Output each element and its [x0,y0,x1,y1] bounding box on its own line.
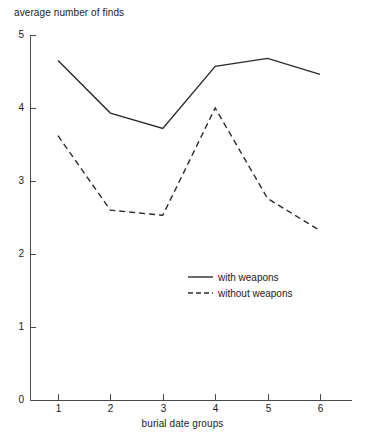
legend-sample-lines [188,277,213,293]
x-tick-label-3: 3 [155,403,173,414]
series-line-without-weapons [58,108,320,231]
x-tick-label-6: 6 [312,403,330,414]
x-tick-label-2: 2 [102,403,120,414]
y-tick-label-1: 1 [6,321,24,332]
data-series-group [58,58,320,230]
y-tick-label-2: 2 [6,248,24,259]
x-tick-label-1: 1 [50,403,68,414]
x-tick-label-4: 4 [207,403,225,414]
legend-label-with-weapons: with weapons [218,272,279,283]
y-tick-label-3: 3 [6,175,24,186]
y-tick-marks [31,36,37,401]
series-line-with-weapons [58,58,320,128]
x-tick-label-5: 5 [260,403,278,414]
y-tick-label-4: 4 [6,102,24,113]
axes-group [31,35,353,401]
y-tick-label-5: 5 [6,29,24,40]
chart-figure: average number of finds 012345 123456 wi… [0,0,365,447]
line-chart-plot [0,0,365,447]
x-axis-title: burial date groups [0,418,365,429]
legend-label-without-weapons: without weapons [218,288,293,299]
x-tick-marks [59,394,321,401]
y-tick-label-0: 0 [6,394,24,405]
